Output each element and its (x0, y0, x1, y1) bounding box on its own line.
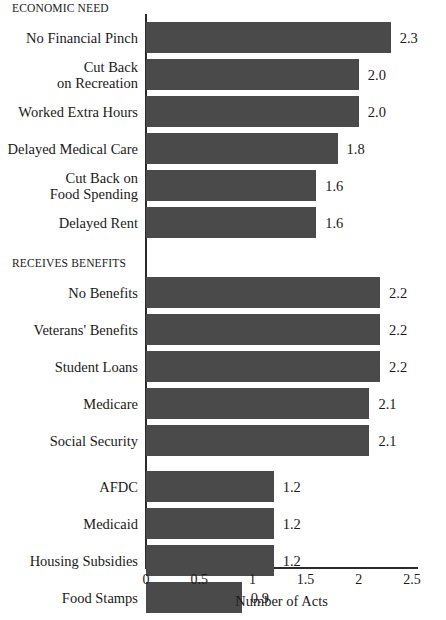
section-header-2: RECEIVES BENEFITS (12, 257, 142, 269)
bar-value-label: 1.8 (347, 140, 365, 157)
bar-category-label: Delayed Medical Care (0, 140, 138, 157)
section-header-1: ECONOMIC NEED (12, 2, 142, 14)
bar (146, 22, 391, 53)
bar-category-label: Housing Subsidies (0, 552, 138, 569)
bar-row: Cut Back on Recreation2.0 (0, 59, 446, 90)
x-tick-label: 1.5 (297, 572, 315, 588)
bar (146, 59, 359, 90)
bar-row: Cut Back on Food Spending1.6 (0, 170, 446, 201)
bar-row: Worked Extra Hours2.0 (0, 96, 446, 127)
bar-row: No Benefits2.2 (0, 277, 446, 308)
bar (146, 351, 380, 382)
bar-value-label: 2.0 (368, 66, 386, 83)
bar-value-label: 1.6 (325, 214, 343, 231)
bar-value-label: 2.1 (378, 432, 396, 449)
bar-category-label: Social Security (0, 432, 138, 449)
bar (146, 508, 274, 539)
bar-value-label: 2.2 (389, 321, 407, 338)
bar-row: Delayed Medical Care1.8 (0, 133, 446, 164)
bar-category-label: Veterans' Benefits (0, 321, 138, 338)
bar-row: Social Security2.1 (0, 425, 446, 456)
bar (146, 388, 369, 419)
bar-category-label: Food Stamps (0, 589, 138, 606)
bar-row: Veterans' Benefits2.2 (0, 314, 446, 345)
bar-category-label: Cut Back on Food Spending (0, 169, 138, 202)
bar-category-label: Delayed Rent (0, 214, 138, 231)
bar (146, 133, 338, 164)
bar-category-label: Worked Extra Hours (0, 103, 138, 120)
x-tick-label: 0.5 (190, 572, 208, 588)
bar-value-label: 1.2 (283, 478, 301, 495)
bar (146, 277, 380, 308)
bar-row: Delayed Rent1.6 (0, 207, 446, 238)
bar-row: Medicaid1.2 (0, 508, 446, 539)
bar-category-label: Student Loans (0, 358, 138, 375)
bar-row: AFDC1.2 (0, 471, 446, 502)
bar (146, 96, 359, 127)
bar-row: Student Loans2.2 (0, 351, 446, 382)
bar-category-label: Cut Back on Recreation (0, 58, 138, 91)
bar-value-label: 1.6 (325, 177, 343, 194)
bar-value-label: 2.3 (400, 29, 418, 46)
x-tick-label: 2.5 (403, 572, 421, 588)
bar-category-label: AFDC (0, 478, 138, 495)
bar-value-label: 2.0 (368, 103, 386, 120)
x-tick-label: 2 (355, 572, 362, 588)
bar-category-label: Medicare (0, 395, 138, 412)
bar-row: No Financial Pinch2.3 (0, 22, 446, 53)
bar (146, 425, 369, 456)
bar (146, 314, 380, 345)
bar-row: Medicare2.1 (0, 388, 446, 419)
bar-value-label: 2.1 (378, 395, 396, 412)
bar-value-label: 1.2 (283, 515, 301, 532)
x-tick-label: 0 (143, 572, 150, 588)
x-axis-title: Number of Acts (145, 593, 418, 610)
bar-category-label: No Financial Pinch (0, 29, 138, 46)
x-tick-label: 1 (249, 572, 256, 588)
bar-category-label: No Benefits (0, 284, 138, 301)
bar-value-label: 2.2 (389, 284, 407, 301)
bar (146, 471, 274, 502)
bar-category-label: Medicaid (0, 515, 138, 532)
bar (146, 207, 316, 238)
bar-chart: ECONOMIC NEEDNo Financial Pinch2.3Cut Ba… (0, 0, 446, 620)
bar-row: Housing Subsidies1.2 (0, 545, 446, 576)
bar-value-label: 1.2 (283, 552, 301, 569)
bar-value-label: 2.2 (389, 358, 407, 375)
bar (146, 170, 316, 201)
